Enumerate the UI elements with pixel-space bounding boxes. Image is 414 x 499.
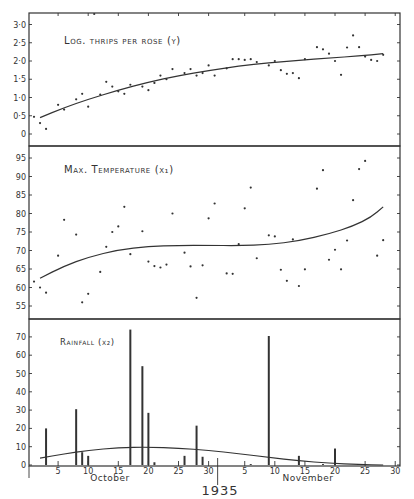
data-point	[105, 81, 107, 83]
data-point	[364, 160, 366, 162]
x-tick-label: 25	[173, 467, 183, 476]
y-tick-label: 90	[16, 173, 26, 182]
x-tick-label: 30	[390, 467, 400, 476]
data-point	[244, 59, 246, 61]
data-point	[123, 206, 125, 208]
data-point	[280, 69, 282, 71]
data-point	[87, 106, 89, 108]
trend-curve	[40, 207, 383, 278]
year-label: 1935	[201, 483, 238, 498]
data-point	[105, 246, 107, 248]
data-point	[171, 212, 173, 214]
panel-title-temperature: Max. Temperature (x₁)	[64, 164, 174, 175]
data-point	[238, 58, 240, 60]
y-tick-label: 95	[16, 154, 26, 163]
data-point	[171, 68, 173, 70]
data-point	[370, 59, 372, 61]
top-panel-thrips: 00·51·01·52·02·53·0	[13, 13, 400, 146]
data-point	[232, 58, 234, 60]
data-point	[33, 280, 35, 282]
data-point	[292, 72, 294, 74]
data-point	[159, 266, 161, 268]
data-point	[316, 188, 318, 190]
y-tick-label: 40	[16, 388, 26, 397]
data-point	[208, 217, 210, 219]
trend-curve	[40, 54, 383, 118]
data-point	[346, 46, 348, 48]
data-point	[201, 264, 203, 266]
trend-curve	[40, 447, 383, 465]
data-point	[33, 116, 35, 118]
data-point	[340, 74, 342, 76]
data-point	[352, 34, 354, 36]
x-tick-label: 25	[360, 467, 370, 476]
panel-title-rainfall: Rainfall (x₂)	[60, 337, 115, 347]
data-point	[250, 58, 252, 60]
data-point	[298, 285, 300, 287]
data-point	[376, 60, 378, 62]
x-tick-label: 5	[242, 467, 247, 476]
data-point	[256, 257, 258, 259]
data-point	[63, 219, 65, 221]
data-point	[45, 128, 47, 130]
data-point	[87, 293, 89, 295]
y-tick-label: 70	[16, 247, 26, 256]
data-point	[280, 269, 282, 271]
y-tick-label: 50	[16, 370, 26, 379]
data-point	[214, 202, 216, 204]
y-tick-label: 80	[16, 210, 26, 219]
data-point	[358, 168, 360, 170]
data-point	[57, 104, 59, 106]
data-point	[328, 259, 330, 261]
data-point	[147, 89, 149, 91]
data-point	[268, 234, 270, 236]
data-point	[129, 253, 131, 255]
data-point	[226, 272, 228, 274]
panel-frame	[29, 13, 400, 146]
data-point	[117, 225, 119, 227]
data-point	[165, 263, 167, 265]
data-point	[159, 75, 161, 77]
data-point	[244, 207, 246, 209]
y-tick-label: 65	[16, 265, 26, 274]
y-tick-label: 1·5	[13, 75, 26, 84]
data-point	[141, 85, 143, 87]
data-point	[316, 46, 318, 48]
data-point	[81, 93, 83, 95]
data-point	[111, 231, 113, 233]
y-tick-label: 70	[16, 333, 26, 342]
data-point	[256, 61, 258, 63]
data-point	[286, 280, 288, 282]
data-point	[232, 273, 234, 275]
data-point	[189, 68, 191, 70]
panel-title-thrips: Log. thrips per rose (y)	[64, 35, 181, 46]
data-point	[322, 48, 324, 50]
data-point	[358, 46, 360, 48]
y-tick-label: 0	[21, 461, 26, 470]
thrips-weather-chart: 00·51·01·52·02·53·0 556065707580859095 0…	[0, 0, 414, 499]
data-point	[274, 235, 276, 237]
data-point	[328, 53, 330, 55]
data-point	[75, 233, 77, 235]
data-point	[183, 72, 185, 74]
data-point	[57, 255, 59, 257]
y-tick-label: 3·0	[13, 21, 26, 30]
data-point	[195, 75, 197, 77]
data-point	[123, 93, 125, 95]
y-tick-label: 2·5	[13, 39, 26, 48]
y-tick-label: 10	[16, 443, 26, 452]
data-point	[382, 239, 384, 241]
x-tick-label: 5	[56, 467, 61, 476]
data-point	[304, 268, 306, 270]
data-point	[376, 255, 378, 257]
data-point	[189, 265, 191, 267]
y-tick-label: 60	[16, 284, 26, 293]
y-tick-label: 20	[16, 424, 26, 433]
x-tick-label: 20	[143, 467, 153, 476]
y-tick-label: 0	[21, 130, 26, 139]
x-tick-label: 10	[270, 467, 280, 476]
y-tick-label: 60	[16, 351, 26, 360]
data-point	[93, 13, 95, 15]
data-point	[39, 122, 41, 124]
data-point	[208, 64, 210, 66]
